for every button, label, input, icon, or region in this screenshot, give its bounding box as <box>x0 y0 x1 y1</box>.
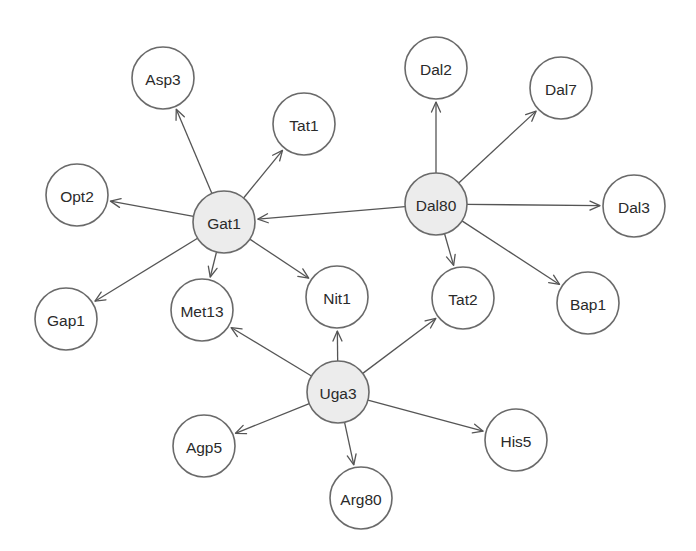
node-dal2[interactable]: Dal2 <box>405 37 467 99</box>
edge-gat1-to-tat1 <box>244 150 283 198</box>
edge-gat1-to-asp3 <box>176 109 212 193</box>
node-dal80[interactable]: Dal80 <box>405 173 467 235</box>
edge-line <box>459 111 536 183</box>
node-label: Met13 <box>180 303 223 320</box>
node-label: Asp3 <box>145 71 180 88</box>
network-diagram: Gat1Dal80Uga3Asp3Tat1Opt2Gap1Met13Nit1Da… <box>0 0 696 551</box>
node-arg80[interactable]: Arg80 <box>330 467 392 529</box>
edge-line <box>363 318 436 373</box>
arrowhead-icon <box>549 275 560 284</box>
edge-dal80-to-tat2 <box>445 234 456 266</box>
node-label: Uga3 <box>319 385 356 402</box>
edge-line <box>368 400 483 431</box>
edge-line <box>231 328 311 376</box>
edge-line <box>250 239 309 278</box>
node-met13[interactable]: Met13 <box>171 279 233 341</box>
node-label: Tat1 <box>289 117 318 134</box>
node-his5[interactable]: His5 <box>485 409 547 471</box>
node-gat1[interactable]: Gat1 <box>193 191 255 253</box>
edge-line <box>236 404 310 434</box>
node-asp3[interactable]: Asp3 <box>132 47 194 109</box>
edge-uga3-to-agp5 <box>236 404 310 434</box>
node-nit1[interactable]: Nit1 <box>306 266 368 328</box>
edge-line <box>110 201 193 216</box>
node-label: Gat1 <box>207 215 241 232</box>
node-label: Nit1 <box>323 290 351 307</box>
node-dal7[interactable]: Dal7 <box>530 57 592 119</box>
node-label: Tat2 <box>448 291 477 308</box>
node-label: Bap1 <box>570 296 606 313</box>
edge-gat1-to-opt2 <box>110 199 193 217</box>
node-label: Dal7 <box>545 81 577 98</box>
node-label: Dal80 <box>416 197 457 214</box>
edge-line <box>258 207 405 220</box>
edge-uga3-to-tat2 <box>363 318 436 373</box>
edge-gat1-to-met13 <box>208 252 217 277</box>
arrowhead-icon <box>95 292 106 301</box>
node-bap1[interactable]: Bap1 <box>557 272 619 334</box>
arrowhead-icon <box>298 269 309 278</box>
node-tat2[interactable]: Tat2 <box>432 267 494 329</box>
nodes-layer: Gat1Dal80Uga3Asp3Tat1Opt2Gap1Met13Nit1Da… <box>35 37 665 529</box>
edge-dal80-to-dal3 <box>467 201 600 210</box>
edge-uga3-to-nit1 <box>333 331 342 361</box>
node-label: Opt2 <box>60 188 94 205</box>
edge-dal80-to-dal7 <box>459 111 536 183</box>
node-label: His5 <box>500 433 531 450</box>
node-label: Gap1 <box>47 312 85 329</box>
edge-gat1-to-nit1 <box>250 239 309 278</box>
arrowhead-icon <box>231 328 242 337</box>
node-opt2[interactable]: Opt2 <box>46 164 108 226</box>
node-agp5[interactable]: Agp5 <box>173 415 235 477</box>
edge-line <box>467 204 600 205</box>
node-label: Agp5 <box>186 439 222 456</box>
edge-dal80-to-dal2 <box>432 102 441 173</box>
edge-uga3-to-his5 <box>368 400 483 433</box>
node-tat1[interactable]: Tat1 <box>273 93 335 155</box>
node-dal3[interactable]: Dal3 <box>603 175 665 237</box>
edge-dal80-to-gat1 <box>258 207 405 223</box>
node-label: Dal3 <box>618 199 650 216</box>
node-uga3[interactable]: Uga3 <box>307 361 369 423</box>
edge-line <box>176 109 212 193</box>
node-label: Arg80 <box>340 491 382 508</box>
edge-uga3-to-met13 <box>231 328 311 376</box>
edge-uga3-to-arg80 <box>345 422 356 464</box>
node-gap1[interactable]: Gap1 <box>35 288 97 350</box>
edge-line <box>244 150 283 198</box>
node-label: Dal2 <box>420 61 452 78</box>
